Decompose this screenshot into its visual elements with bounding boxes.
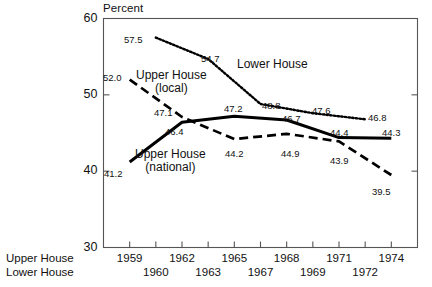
percent-line-chart: Percent 60504030 19591962196519681971197… xyxy=(0,0,432,287)
series-annotation-line2: (national) xyxy=(135,161,206,174)
x-tick-1972: 1972 xyxy=(343,266,387,278)
series-annotation-line1: Lower House xyxy=(237,57,308,71)
plot-frame xyxy=(104,19,418,248)
point-label-47.2: 47.2 xyxy=(224,103,243,114)
point-label-57.5: 57.5 xyxy=(124,34,143,45)
x-tick-1962: 1962 xyxy=(160,252,204,264)
x-tick-1965: 1965 xyxy=(212,252,256,264)
point-label-43.9: 43.9 xyxy=(330,155,349,166)
x-row-label-lower-house: Lower House xyxy=(6,266,74,278)
point-label-47.1: 47.1 xyxy=(154,107,173,118)
x-tick-1969: 1969 xyxy=(291,266,335,278)
x-tick-1960: 1960 xyxy=(134,266,178,278)
x-tick-1971: 1971 xyxy=(317,252,361,264)
point-label-54.7: 54.7 xyxy=(201,53,220,64)
point-label-52.0: 52.0 xyxy=(103,72,122,83)
series-annotation-2: Upper House(national) xyxy=(135,148,206,174)
series-annotation-1: Lower House xyxy=(237,58,308,71)
x-tick-1974: 1974 xyxy=(369,252,413,264)
y-tick-60: 60 xyxy=(64,11,98,25)
series-annotation-0: Upper House(local) xyxy=(136,69,207,95)
x-axis-ticks xyxy=(130,242,392,248)
x-tick-1959: 1959 xyxy=(108,252,152,264)
point-label-46.8: 46.8 xyxy=(368,112,387,123)
point-label-39.5: 39.5 xyxy=(372,186,391,197)
x-tick-1967: 1967 xyxy=(239,266,283,278)
series-annotation-line1: Upper House xyxy=(136,68,207,82)
series-annotation-line2: (local) xyxy=(136,82,207,95)
point-label-44.4: 44.4 xyxy=(330,127,349,138)
point-label-46.7: 46.7 xyxy=(282,113,301,124)
x-tick-1968: 1968 xyxy=(265,252,309,264)
point-label-48.8: 48.8 xyxy=(262,100,281,111)
y-tick-40: 40 xyxy=(64,163,98,177)
x-row-label-upper-house: Upper House xyxy=(6,252,74,264)
point-label-47.6: 47.6 xyxy=(312,105,331,116)
y-tick-50: 50 xyxy=(64,87,98,101)
point-label-46.4: 46.4 xyxy=(165,126,184,137)
series-annotation-line1: Upper House xyxy=(135,147,206,161)
point-label-41.2: 41.2 xyxy=(104,168,123,179)
point-label-44.9: 44.9 xyxy=(281,148,300,159)
point-label-44.3: 44.3 xyxy=(382,127,401,138)
point-label-44.2: 44.2 xyxy=(225,148,244,159)
x-tick-1963: 1963 xyxy=(186,266,230,278)
